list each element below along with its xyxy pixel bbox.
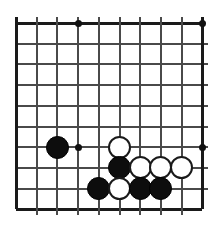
go-board-diagram [0,0,224,231]
black-stone-bottom-a[interactable] [87,177,110,200]
black-stone-bottom-c[interactable] [149,177,172,200]
white-stone-middle-a[interactable] [129,156,152,179]
black-stone-bottom-b[interactable] [129,177,152,200]
white-stone-bottom[interactable] [108,177,131,200]
white-stone-middle-b[interactable] [149,156,172,179]
board-stones [0,0,224,231]
white-stone-middle-c[interactable] [170,156,193,179]
black-stone-left[interactable] [46,136,69,159]
white-stone-upper[interactable] [108,136,131,159]
black-stone-middle[interactable] [108,156,131,179]
